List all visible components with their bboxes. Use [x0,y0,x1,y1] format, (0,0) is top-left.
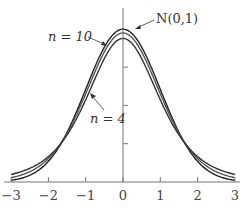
x-ticks: −3−2−10123 [2,177,240,203]
x-tick-label: 3 [231,188,239,203]
label-n10: n = 10 [48,29,92,44]
arrow-n4 [92,96,104,110]
x-tick-label: 1 [156,188,164,203]
y-ticks [123,67,128,144]
x-tick-label: −3 [2,188,21,203]
label-n4: n = 4 [90,111,126,126]
arrowhead-n4-icon [90,93,96,99]
label-normal: N(0,1) [156,11,198,26]
x-tick-label: −2 [39,188,58,203]
arrowhead-normal-icon [135,25,141,29]
x-tick-label: 2 [193,188,201,203]
chart: −3−2−10123 N(0,1) n = 10 n = 4 [0,0,241,217]
x-tick-label: 0 [119,188,127,203]
x-tick-label: −1 [76,188,95,203]
